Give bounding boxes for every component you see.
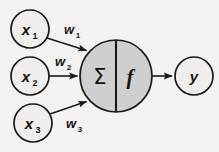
input-node-x2: x 2 — [11, 57, 49, 95]
input-label-x1-base: x — [21, 21, 31, 38]
output-node-y: y — [175, 57, 213, 95]
neuron-diagram: Σ f x 1 x 2 x 3 y w 1 — [0, 0, 219, 152]
diagram-canvas: Σ f x 1 x 2 x 3 y w 1 — [0, 0, 219, 152]
neuron-node: Σ f — [80, 40, 152, 112]
input-node-x3: x 3 — [14, 104, 52, 142]
weight-w2-base: w — [55, 54, 66, 69]
output-label-y: y — [189, 68, 199, 85]
input-label-x1-subscript: 1 — [32, 31, 37, 41]
input-label-x2-subscript: 2 — [32, 78, 37, 88]
weight-w1-subscript: 1 — [76, 31, 81, 40]
weight-w3-base: w — [66, 116, 77, 131]
input-label-x3-base: x — [24, 115, 34, 132]
weight-w1-base: w — [64, 22, 75, 37]
weight-w2-subscript: 2 — [67, 63, 72, 72]
weight-w3-subscript: 3 — [78, 125, 83, 134]
summation-symbol: Σ — [93, 65, 106, 89]
input-node-x1: x 1 — [11, 10, 49, 48]
input-label-x2-base: x — [21, 68, 31, 85]
input-label-x3-subscript: 3 — [35, 125, 40, 135]
